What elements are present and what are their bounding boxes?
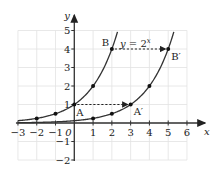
point-label-B-prime: B′ xyxy=(171,51,181,62)
data-point xyxy=(129,103,133,107)
data-point xyxy=(110,47,114,51)
origin-label: 0 xyxy=(65,127,72,138)
curves xyxy=(18,32,174,123)
x-tick-label: 4 xyxy=(146,127,152,138)
marked-points xyxy=(35,47,170,120)
data-point xyxy=(54,112,58,116)
curve-translated xyxy=(18,32,174,123)
x-tick-label: 1 xyxy=(90,127,96,138)
axes: xy xyxy=(16,10,210,161)
y-axis-label: y xyxy=(63,10,70,21)
data-point xyxy=(166,47,170,51)
tick-labels: −3−2−1123456−2−1123450 xyxy=(11,25,191,166)
x-tick-label: −2 xyxy=(29,127,44,138)
grid-lines xyxy=(18,31,187,161)
graph: xy −3−2−1123456−2−1123450 AA′BB′y = 2x xyxy=(0,0,216,170)
data-point xyxy=(110,112,114,116)
data-point xyxy=(147,84,151,88)
curve-label: y = 2x xyxy=(119,37,151,49)
data-point xyxy=(91,84,95,88)
y-tick-label: 3 xyxy=(64,62,70,73)
point-label-A: A xyxy=(75,107,84,118)
x-axis-label: x xyxy=(204,126,210,137)
x-tick-label: 5 xyxy=(165,127,171,138)
data-point xyxy=(35,116,39,120)
y-tick-label: 5 xyxy=(64,25,70,36)
x-tick-label: 2 xyxy=(109,127,115,138)
translation-arrows xyxy=(77,49,165,105)
x-tick-label: −3 xyxy=(11,127,26,138)
x-tick-label: 6 xyxy=(184,127,190,138)
x-tick-label: 3 xyxy=(127,127,133,138)
data-point xyxy=(91,116,95,120)
point-label-A-prime: A′ xyxy=(133,106,144,117)
y-tick-label: 2 xyxy=(64,81,70,92)
point-label-B: B xyxy=(102,37,109,48)
y-tick-label: −2 xyxy=(56,155,71,166)
y-tick-label: 4 xyxy=(64,44,70,55)
y-tick-label: 1 xyxy=(64,99,70,110)
